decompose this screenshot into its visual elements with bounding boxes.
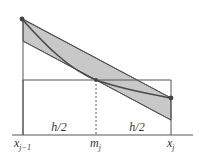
right-endpoint-dot [169, 96, 174, 101]
secant-line [22, 19, 171, 98]
right-half-width-label: h/2 [129, 120, 144, 134]
midpoint-label: mj [90, 136, 102, 152]
midpoint-dot [94, 78, 98, 82]
x-left-label: xj−1 [13, 136, 31, 152]
left-half-width-label: h/2 [51, 120, 66, 134]
error-band [23, 19, 171, 120]
x-right-label: xj [166, 136, 175, 152]
midpoint-rule-diagram: h/2 h/2 xj−1 mj xj [0, 0, 199, 155]
left-endpoint-dot [20, 17, 25, 22]
